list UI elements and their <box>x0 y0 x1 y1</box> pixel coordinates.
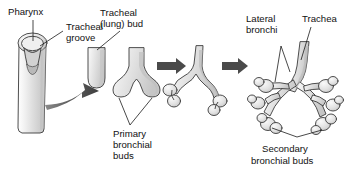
stage4-lobe-left-1 <box>163 84 177 96</box>
label-tracheal-bud-line2: (lung) bud <box>100 18 143 29</box>
label-lateral-bronchi-line1: Lateral <box>246 13 275 24</box>
label-primary-buds-line2: bronchial <box>113 139 152 150</box>
primary-buds-body <box>113 48 160 97</box>
label-tracheal-groove-line1: Tracheal <box>66 21 103 32</box>
label-secondary-buds-line1: Secondary <box>262 143 308 154</box>
lobe-lower-right-2 <box>326 114 337 124</box>
lobe-lower-left-3 <box>257 114 267 123</box>
stage-1-pharynx-tracheal-groove <box>18 33 47 133</box>
stage4-lobe-left-2 <box>168 95 181 107</box>
diagram-canvas: Pharynx Tracheal groove Tracheal (lung) … <box>0 0 347 171</box>
label-lateral-bronchi-line2: bronchi <box>246 24 277 35</box>
label-trachea: Trachea <box>302 13 338 24</box>
stage4-trunk-shading <box>199 50 219 97</box>
stage4-trunk <box>172 46 219 98</box>
label-tracheal-groove-line2: groove <box>66 32 95 43</box>
tracheal-bud-leader-line <box>97 31 120 50</box>
progression-arrow-2 <box>222 58 248 74</box>
embryology-diagram-figure: Pharynx Tracheal groove Tracheal (lung) … <box>0 0 347 171</box>
progression-arrow-1 <box>157 58 186 74</box>
stage4-lobe-right-2 <box>208 105 220 116</box>
lobe-mid-right-2 <box>335 96 344 104</box>
primary-buds-leader-line-right <box>130 98 152 125</box>
label-tracheal-bud-line1: Tracheal <box>100 7 137 18</box>
stage-3-primary-bronchial-buds <box>113 48 160 97</box>
primary-buds-leader-line-left <box>119 98 130 125</box>
stage-5-secondary-bronchial-buds <box>248 42 344 135</box>
label-primary-buds-line1: Primary <box>113 128 146 139</box>
lobe-lower-left-2 <box>270 123 282 134</box>
label-secondary-buds-line2: bronchial buds <box>251 155 314 166</box>
lobe-upper-right-2 <box>328 77 338 86</box>
lateral-bronchi-leader-line-1 <box>281 46 290 72</box>
curved-progression-arrow <box>45 83 99 110</box>
lobe-lower-right-3 <box>311 126 321 135</box>
progression-arrow-2-shape <box>222 58 248 74</box>
curved-arrow-shape <box>45 83 99 110</box>
lateral-bronchi-leader-line-2 <box>275 46 281 82</box>
lateral-bronchus-upper-right <box>304 83 320 91</box>
label-pharynx: Pharynx <box>8 6 43 17</box>
lobe-upper-left-2 <box>254 78 264 87</box>
label-primary-buds-line3: buds <box>113 150 134 161</box>
lobe-mid-left-2 <box>248 95 257 103</box>
stage-2-tracheal-lung-bud <box>88 48 105 88</box>
progression-arrow-1-shape <box>157 58 186 74</box>
stage-4-lateral-bronchi <box>163 46 227 116</box>
lateral-bronchus-upper-left <box>272 83 289 89</box>
